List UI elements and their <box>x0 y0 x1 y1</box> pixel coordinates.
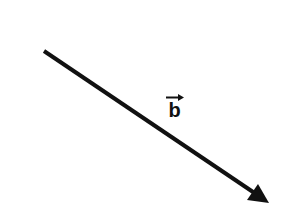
vector-b-arrowhead-icon <box>247 184 269 203</box>
vector-b-label-text: b <box>168 99 180 121</box>
vector-diagram: b <box>0 0 287 206</box>
vector-b-label: b <box>166 94 184 121</box>
vector-b-shaft <box>44 51 256 194</box>
vector-diagram-svg: b <box>0 0 287 206</box>
